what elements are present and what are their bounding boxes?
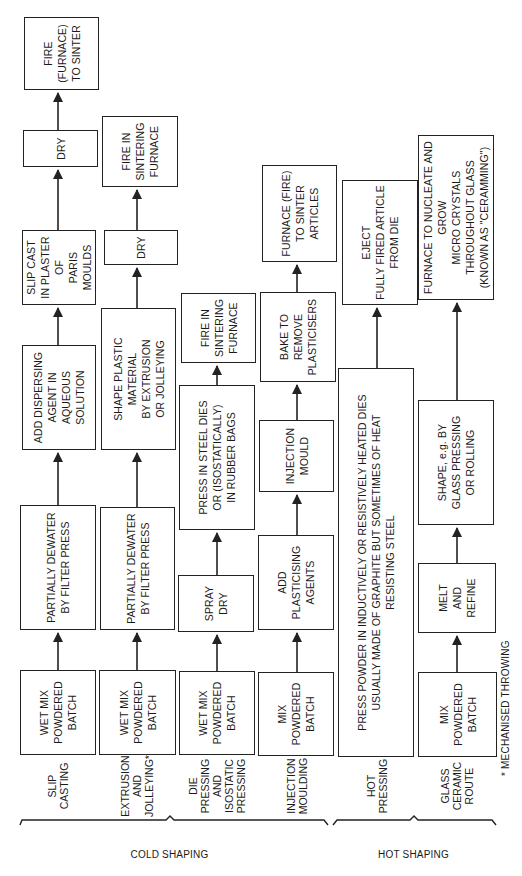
step-eject-fired-article: EJECT FULLY FIRED ARTICLE FROM DIE [342,180,418,305]
step-dry: DRY [23,130,98,167]
step-mix-powdered-batch: MIX POWDERED BATCH [418,672,497,757]
row-label-glass-ceramic-route: GLASS CERAMIC ROUTE [418,758,495,814]
row-label-extrusion-jolleying: EXTRUSION AND JOLLEYING* [98,758,175,814]
step-melt-and-refine: MELT AND REFINE [418,563,496,633]
row-label-slip-casting: SLIP CASTING [20,758,95,814]
step-spray-dry: SPRAY DRY [178,575,254,632]
step-wet-mix-batch: WET MIX POWDERED BATCH [20,670,96,755]
row-label-injection-moulding: INJECTION MOULDING [258,758,335,814]
step-partially-dewater: PARTIALLY DEWATER BY FILTER PRESS [100,507,175,630]
step-press-in-steel-dies: PRESS IN STEEL DIES OR (ISOSTATICALLY) I… [179,385,255,530]
step-shape-plastic-material: SHAPE PLASTIC MATERIAL BY EXTRUSION OR J… [101,308,176,450]
step-bake-remove-plasticisers: BAKE TO REMOVE PLASTICISERS [260,292,336,382]
row-label-die-pressing: DIE PRESSING AND ISOSTATIC PRESSING [178,758,255,814]
step-wet-mix-batch: WET MIX POWDERED BATCH [99,670,176,755]
step-fire-to-sinter: FIRE (FURNACE) TO SINTER [24,17,99,90]
group-label-hot-shaping: HOT SHAPING [364,849,464,860]
step-add-plasticising-agents: ADD PLASTICISING AGENTS [258,535,334,630]
step-fire-in-sintering-furnace: FIRE IN SINTERING FURNACE [181,293,256,363]
footnote-mechanised-throwing: * MECHANISED THROWING [500,640,511,776]
step-shape-glass-pressing: SHAPE, e.g. BY GLASS PRESSING OR ROLLING [418,400,494,525]
step-wet-mix-batch: WET MIX POWDERED BATCH [179,671,255,755]
step-mix-powdered-batch: MIX POWDERED BATCH [258,672,334,756]
step-furnace-sinter-articles: FURNACE (FIRE) TO SINTER ARTICLES [262,165,337,262]
step-injection-mould: INJECTION MOULD [259,420,334,492]
step-furnace-nucleate-crystals: FURNACE TO NUCLEATE AND GROW MICRO CRYST… [418,135,494,300]
group-braces [20,816,496,825]
step-add-dispersing-agent: ADD DISPERSING AGENT IN AQUEOUS SOLUTION [22,345,96,450]
step-dry: DRY [104,230,178,265]
step-fire-in-sintering-furnace: FIRE IN SINTERING FURNACE [102,116,178,187]
step-partially-dewater: PARTIALLY DEWATER BY FILTER PRESS [20,505,96,630]
group-label-cold-shaping: COLD SHAPING [120,849,220,860]
step-press-powder-heated-dies: PRESS POWDER IN INDUCTIVELY OR RESISTIVE… [338,368,414,757]
step-slip-cast: SLIP CAST IN PLASTER OF PARIS MOULDS [22,230,96,305]
process-flow-diagram: COLD SHAPING HOT SHAPING SLIP CASTING EX… [0,0,522,876]
row-label-hot-pressing: HOT PRESSING [338,758,415,814]
